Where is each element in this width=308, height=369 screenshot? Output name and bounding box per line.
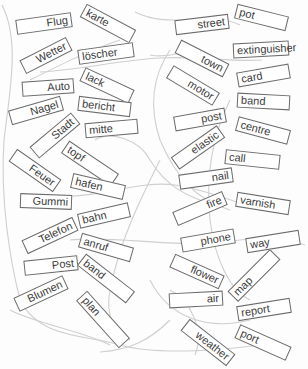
word-label: löscher (81, 46, 118, 62)
word-card-weather[interactable]: weather (181, 319, 236, 367)
word-card-call[interactable]: call (224, 149, 280, 170)
word-label: Nagel (29, 99, 60, 117)
word-label: Auto (47, 80, 70, 93)
word-card-telefon[interactable]: Telefon (21, 217, 78, 254)
word-card-karte[interactable]: karte (80, 4, 136, 44)
word-label: street (197, 16, 226, 30)
word-label: bericht (81, 98, 115, 113)
word-card-map[interactable]: map (227, 249, 280, 302)
word-card-mitte[interactable]: mitte (84, 119, 138, 139)
word-label: plan (80, 295, 102, 318)
word-label: centre (239, 119, 271, 138)
word-label: flower (189, 264, 220, 286)
word-label: way (249, 237, 270, 251)
word-card-way[interactable]: way (245, 230, 301, 253)
word-card-nagel[interactable]: Nagel (8, 96, 64, 125)
word-label: band (241, 95, 266, 107)
word-card-flug[interactable]: Flug (15, 12, 73, 35)
word-label: elastic (189, 129, 221, 156)
word-label: hafen (74, 176, 103, 193)
word-label: topf (65, 144, 86, 163)
word-label: weather (193, 329, 231, 362)
word-label: Flug (46, 15, 69, 29)
word-card-port[interactable]: port (234, 324, 291, 360)
word-label: fire (205, 194, 223, 210)
word-label: call (229, 152, 247, 165)
word-card-card[interactable]: card (236, 64, 291, 88)
word-label: nail (211, 170, 229, 183)
word-label: Telefon (37, 220, 74, 245)
word-label: anruf (82, 236, 109, 253)
word-label: Gummi (32, 196, 68, 208)
word-card-gummi[interactable]: Gummi (20, 193, 72, 210)
matching-worksheet: Flug Wetter Auto Nagel Stadt Feuer Gummi… (0, 0, 308, 369)
word-card-air[interactable]: air (169, 291, 224, 309)
word-card-elastic[interactable]: elastic (171, 125, 225, 169)
word-label: air (206, 293, 219, 305)
word-label: phone (200, 231, 232, 247)
word-card-nail[interactable]: nail (178, 167, 234, 189)
word-label: map (232, 275, 255, 298)
word-card-extinguisher[interactable]: extinguisher (233, 41, 290, 59)
word-label: varnish (239, 194, 276, 210)
word-card-report[interactable]: report (236, 298, 292, 321)
word-label: report (240, 303, 270, 318)
word-label: Stadt (49, 117, 76, 142)
word-label: port (239, 328, 261, 346)
word-card-bahn[interactable]: bahn (77, 202, 131, 228)
word-label: mitte (89, 123, 114, 136)
word-label: Blumen (26, 279, 64, 305)
word-card-blumen[interactable]: Blumen (13, 275, 68, 311)
word-label: Wetter (34, 41, 68, 65)
word-card-post[interactable]: Post (23, 255, 78, 276)
word-card-auto[interactable]: Auto (22, 78, 75, 97)
word-label: karte (84, 7, 111, 28)
word-card-feuer[interactable]: Feuer (9, 149, 62, 192)
word-label: motor (186, 78, 216, 102)
word-label: band (81, 258, 107, 282)
word-card-phone[interactable]: phone (180, 228, 236, 252)
word-card-street[interactable]: street (174, 14, 229, 35)
word-card-pot[interactable]: pot (234, 4, 289, 31)
word-card-centre[interactable]: centre (235, 116, 291, 144)
word-label: Feuer (27, 163, 57, 189)
word-label: Post (51, 258, 74, 271)
word-label: extinguisher (237, 42, 297, 56)
word-label: town (199, 53, 225, 73)
word-card-flower[interactable]: flower (169, 254, 224, 290)
word-card-wetter[interactable]: Wetter (19, 37, 72, 74)
word-card-fire[interactable]: fire (172, 191, 228, 226)
word-label: lack (84, 71, 106, 89)
word-card-varnish[interactable]: varnish (235, 192, 291, 215)
word-label: bahn (81, 210, 107, 226)
word-card-band-en[interactable]: band (237, 93, 291, 111)
word-label: card (240, 70, 263, 85)
word-card-loescher[interactable]: löscher (77, 42, 135, 65)
word-label: pot (238, 7, 256, 21)
word-label: post (200, 110, 222, 124)
